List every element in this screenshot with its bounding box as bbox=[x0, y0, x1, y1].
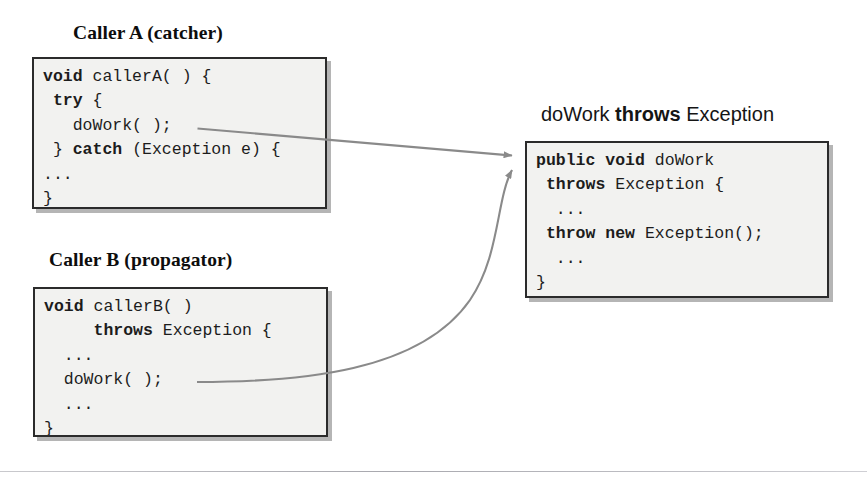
code-line: } catch (Exception e) { bbox=[43, 138, 323, 162]
code-line: throws Exception { bbox=[44, 319, 324, 343]
code-line: void callerA( ) { bbox=[43, 65, 323, 89]
caller-a-code-box: void callerA( ) { try { doWork( ); } cat… bbox=[32, 57, 327, 209]
caller-a-heading: Caller A (catcher) bbox=[73, 22, 223, 44]
code-line: ... bbox=[536, 247, 825, 271]
code-line: } bbox=[536, 271, 825, 295]
code-line: public void doWork bbox=[536, 149, 825, 173]
code-line: doWork( ); bbox=[43, 114, 323, 138]
page-bottom-rule bbox=[0, 471, 867, 472]
caller-a-code: void callerA( ) { try { doWork( ); } cat… bbox=[43, 65, 323, 209]
dowork-code-box: public void doWork throws Exception { ..… bbox=[525, 141, 829, 298]
code-line: ... bbox=[536, 198, 825, 222]
code-line: ... bbox=[44, 393, 324, 417]
code-line: throws Exception { bbox=[536, 173, 825, 197]
dowork-code: public void doWork throws Exception { ..… bbox=[536, 149, 825, 295]
code-line: ... bbox=[43, 163, 323, 187]
code-line: ... bbox=[44, 344, 324, 368]
caller-b-heading: Caller B (propagator) bbox=[49, 249, 232, 271]
code-line: } bbox=[43, 187, 323, 209]
code-line: } bbox=[44, 417, 324, 437]
caller-b-code: void callerB( ) throws Exception { ... d… bbox=[44, 295, 324, 437]
figure-canvas: Caller A (catcher) void callerA( ) { try… bbox=[0, 0, 867, 481]
caller-b-code-box: void callerB( ) throws Exception { ... d… bbox=[33, 287, 328, 437]
code-line: throw new Exception(); bbox=[536, 222, 825, 246]
code-line: doWork( ); bbox=[44, 368, 324, 392]
code-line: void callerB( ) bbox=[44, 295, 324, 319]
code-line: try { bbox=[43, 89, 323, 113]
dowork-heading: doWork throws Exception bbox=[541, 103, 774, 126]
